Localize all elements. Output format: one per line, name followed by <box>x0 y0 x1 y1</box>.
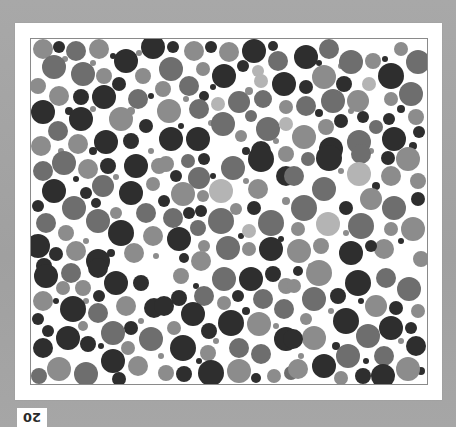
dot <box>100 158 116 174</box>
dot <box>216 236 240 260</box>
dot <box>62 196 86 220</box>
dot <box>159 127 183 151</box>
dot <box>365 53 381 69</box>
dot <box>83 238 89 244</box>
dot <box>401 217 425 241</box>
dot <box>109 107 133 131</box>
dot <box>124 154 148 178</box>
dot <box>167 41 179 53</box>
dot <box>112 77 126 91</box>
plate-number-label: 20 <box>23 411 41 424</box>
dot <box>101 349 125 373</box>
dot <box>397 105 405 113</box>
dot <box>358 298 364 304</box>
dot <box>58 225 74 241</box>
dot <box>396 147 420 171</box>
dot <box>197 190 209 202</box>
dot <box>186 127 210 151</box>
dot <box>195 205 207 217</box>
dot <box>339 201 353 215</box>
dot <box>91 198 101 208</box>
dot <box>31 234 50 258</box>
dot <box>369 120 383 134</box>
dot <box>42 179 66 203</box>
dot <box>181 154 195 168</box>
dot <box>94 130 118 154</box>
dot <box>239 267 263 291</box>
dot <box>287 239 311 263</box>
dot <box>53 298 59 304</box>
dot <box>291 195 317 221</box>
dot <box>158 353 164 359</box>
dot <box>315 109 323 117</box>
dot <box>318 119 334 135</box>
dot <box>88 303 108 323</box>
dot <box>155 81 171 97</box>
dot <box>49 86 69 106</box>
dot <box>116 296 136 316</box>
dot <box>228 91 250 113</box>
dot <box>313 238 329 254</box>
dot <box>242 307 250 315</box>
dot <box>153 253 159 259</box>
dot <box>316 145 342 171</box>
dot <box>178 123 184 129</box>
dot <box>365 295 387 317</box>
dot <box>92 175 114 197</box>
dot <box>399 82 423 106</box>
dot <box>254 74 268 88</box>
dot <box>42 55 66 79</box>
dot <box>173 268 189 284</box>
dot <box>73 89 89 105</box>
dot <box>268 41 278 51</box>
dot <box>53 41 65 53</box>
dot <box>334 114 348 128</box>
dot <box>52 151 76 175</box>
dot <box>411 304 425 318</box>
dot <box>123 133 139 149</box>
dot <box>348 213 374 239</box>
dot <box>213 338 219 344</box>
dot <box>218 310 244 336</box>
dot <box>154 296 174 316</box>
dot <box>189 99 209 119</box>
dot <box>333 308 359 334</box>
dot <box>272 72 296 96</box>
dot <box>378 63 404 89</box>
dot <box>75 280 91 296</box>
dot <box>405 322 417 334</box>
dot <box>93 290 105 302</box>
dot <box>211 97 225 111</box>
dot <box>191 251 211 271</box>
dot <box>80 336 96 352</box>
dot <box>374 346 394 366</box>
dot <box>141 39 165 59</box>
dot <box>345 270 371 296</box>
dot <box>319 39 339 59</box>
color-vision-plate <box>30 38 428 385</box>
dot <box>179 76 199 96</box>
dot <box>42 325 54 337</box>
dot <box>170 335 196 361</box>
dot <box>66 41 86 61</box>
dot <box>210 173 216 179</box>
dot <box>73 176 79 182</box>
dot <box>148 93 154 99</box>
dot <box>60 296 86 322</box>
dot <box>296 96 316 116</box>
dot <box>114 49 138 73</box>
dot <box>230 203 242 215</box>
dot <box>287 279 301 293</box>
dot <box>406 50 428 74</box>
dot <box>360 188 382 210</box>
dot <box>273 323 279 329</box>
dot <box>256 117 280 141</box>
dot <box>312 354 336 378</box>
dot <box>190 220 206 236</box>
dot <box>406 336 426 356</box>
dot <box>36 213 56 233</box>
dot <box>242 39 266 63</box>
dot <box>211 112 235 136</box>
dot <box>410 173 426 189</box>
dot <box>89 39 109 59</box>
